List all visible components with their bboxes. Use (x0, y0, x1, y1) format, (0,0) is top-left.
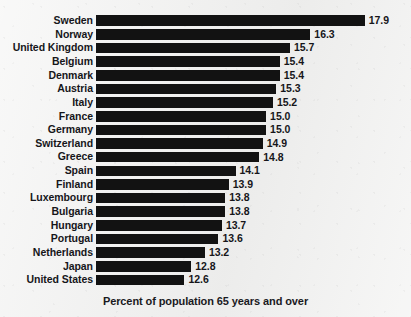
bar-row: Switzerland14.9 (0, 137, 411, 151)
bar (96, 234, 218, 245)
bar-chart-figure: Sweden17.9Norway16.3United Kingdom15.7Be… (0, 0, 411, 317)
bar (96, 70, 280, 81)
bar-row: Bulgaria13.8 (0, 205, 411, 219)
bar (96, 29, 310, 40)
bar (96, 206, 225, 217)
category-label: Switzerland (0, 137, 93, 151)
bar-value-label: 13.6 (222, 232, 242, 246)
category-label: United Kingdom (0, 41, 93, 55)
bar-row: Sweden17.9 (0, 14, 411, 28)
bar (96, 247, 205, 258)
bar-track: 13.2 (96, 246, 411, 260)
bar-row: Denmark15.4 (0, 69, 411, 83)
category-label: Luxembourg (0, 191, 93, 205)
bar-row: Finland13.9 (0, 178, 411, 192)
bar-value-label: 12.8 (195, 260, 215, 274)
x-axis-caption: Percent of population 65 years and over (0, 295, 411, 307)
category-label: Norway (0, 28, 93, 42)
bar-value-label: 17.9 (369, 14, 389, 28)
bar-value-label: 14.8 (263, 151, 283, 165)
bar-value-label: 13.8 (229, 205, 249, 219)
category-label: Spain (0, 164, 93, 178)
category-label: France (0, 110, 93, 124)
category-label: Hungary (0, 219, 93, 233)
category-label: United States (0, 273, 93, 287)
category-label: Denmark (0, 69, 93, 83)
bar-value-label: 15.0 (270, 123, 290, 137)
category-label: Finland (0, 178, 93, 192)
bar-value-label: 15.2 (277, 96, 297, 110)
bar-value-label: 15.3 (280, 82, 300, 96)
bar-value-label: 15.7 (294, 41, 314, 55)
bar-value-label: 13.2 (209, 246, 229, 260)
bar-track: 14.1 (96, 164, 411, 178)
bar-track: 13.7 (96, 219, 411, 233)
bar (96, 43, 290, 54)
bar (96, 166, 236, 177)
bar-row: United States12.6 (0, 273, 411, 287)
bar-row: Japan12.8 (0, 260, 411, 274)
bar-track: 13.8 (96, 205, 411, 219)
bar-track: 15.4 (96, 69, 411, 83)
bar-track: 16.3 (96, 28, 411, 42)
bar-track: 14.8 (96, 151, 411, 165)
bar-row: Portugal13.6 (0, 232, 411, 246)
bar (96, 125, 266, 136)
bar (96, 275, 184, 286)
bar (96, 111, 266, 122)
bar (96, 15, 365, 26)
bar-row: United Kingdom15.7 (0, 41, 411, 55)
category-label: Sweden (0, 14, 93, 28)
bar-row: Austria15.3 (0, 82, 411, 96)
bar-row: Hungary13.7 (0, 219, 411, 233)
bar-row: Netherlands13.2 (0, 246, 411, 260)
bar (96, 220, 222, 231)
bar-value-label: 15.4 (284, 55, 304, 69)
category-label: Greece (0, 150, 93, 164)
bar-value-label: 16.3 (314, 28, 334, 42)
bar-value-label: 13.7 (226, 219, 246, 233)
bar-value-label: 14.1 (240, 164, 260, 178)
bar-track: 17.9 (96, 14, 411, 28)
category-label: Netherlands (0, 246, 93, 260)
bar-track: 13.8 (96, 191, 411, 205)
bar-track: 15.0 (96, 110, 411, 124)
bar-row: Belgium15.4 (0, 55, 411, 69)
bar-track: 15.4 (96, 55, 411, 69)
chart-plot-area: Sweden17.9Norway16.3United Kingdom15.7Be… (0, 0, 411, 292)
bar-track: 12.8 (96, 260, 411, 274)
bar (96, 84, 276, 95)
bar (96, 152, 259, 163)
bar-row: Norway16.3 (0, 28, 411, 42)
category-label: Japan (0, 260, 93, 274)
bar-track: 14.9 (96, 137, 411, 151)
bar-track: 15.2 (96, 96, 411, 110)
category-label: Italy (0, 96, 93, 110)
bar-track: 15.3 (96, 82, 411, 96)
category-label: Germany (0, 123, 93, 137)
bar-row: France15.0 (0, 110, 411, 124)
bar-value-label: 14.9 (267, 137, 287, 151)
bar-track: 13.6 (96, 232, 411, 246)
bar-track: 13.9 (96, 178, 411, 192)
category-label: Belgium (0, 55, 93, 69)
category-label: Austria (0, 82, 93, 96)
bar-track: 15.7 (96, 41, 411, 55)
category-label: Portugal (0, 232, 93, 246)
bar (96, 97, 273, 108)
bar-track: 12.6 (96, 273, 411, 287)
bar-row: Luxembourg13.8 (0, 191, 411, 205)
bar-row: Spain14.1 (0, 164, 411, 178)
bar-value-label: 13.9 (233, 178, 253, 192)
bar (96, 193, 225, 204)
bar-row: Greece14.8 (0, 151, 411, 165)
bar-row: Italy15.2 (0, 96, 411, 110)
bar-row: Germany15.0 (0, 123, 411, 137)
bar-value-label: 15.0 (270, 110, 290, 124)
bar-value-label: 15.4 (284, 69, 304, 83)
bar (96, 179, 229, 190)
bar (96, 138, 263, 149)
bar-value-label: 12.6 (188, 273, 208, 287)
bar-value-label: 13.8 (229, 191, 249, 205)
bar (96, 56, 280, 67)
